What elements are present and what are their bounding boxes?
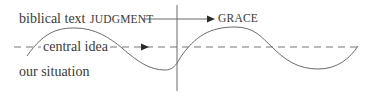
central-idea-label: central idea — [41, 40, 110, 54]
central-idea-arrowhead-icon — [141, 44, 149, 51]
grace-arrowhead-icon — [207, 16, 215, 23]
grace-label: GRACE — [218, 13, 258, 25]
biblical-text-label: biblical text — [19, 12, 85, 26]
diagram-canvas: biblical text JUDGMENT GRACE central ide… — [0, 0, 371, 97]
our-situation-label: our situation — [19, 65, 89, 79]
judgment-label: JUDGMENT — [90, 14, 154, 26]
